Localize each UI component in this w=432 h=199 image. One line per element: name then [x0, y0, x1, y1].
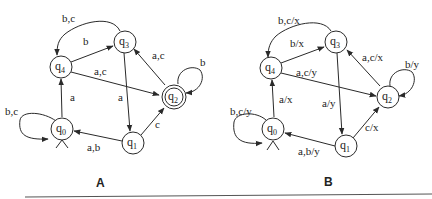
initial-state-marker: [267, 141, 279, 150]
edge-label: c: [155, 118, 160, 130]
state-q4: q4: [50, 56, 72, 78]
edge-q4-q3: b: [71, 35, 113, 62]
edge-q4-q2: a,c: [71, 65, 159, 95]
edge-q3-q4: b,c: [57, 12, 120, 55]
state-q1: q1: [122, 132, 144, 154]
edge-label: a,c: [152, 49, 165, 61]
edge-label: a,b/y: [298, 145, 320, 157]
edge-label: a,c: [94, 65, 107, 77]
figure-caption-a: A: [96, 176, 105, 190]
edge-label: a: [70, 91, 75, 103]
edge-q1-q2: c/x: [353, 107, 379, 138]
edge-label: b,c/y: [230, 105, 252, 117]
edge-q2-q3: a,c/x: [347, 50, 384, 86]
diagram-b: b,c/y a/x b/x b,c/x a,c/y a/y a,c/x b/y: [230, 14, 420, 189]
edge-q0-q4: a/x: [272, 80, 293, 117]
diagram-a: b,c a b b,c a,c a a,c b: [5, 12, 206, 190]
edge-label: b,c/x: [278, 14, 300, 26]
edge-label: a: [118, 91, 123, 103]
state-q2-accepting: q2: [162, 85, 186, 109]
edge-q2-q3: a,c: [134, 49, 165, 85]
edge-q1-q2: c: [141, 108, 164, 135]
state-q4: q4: [260, 57, 282, 79]
state-q0: q0: [262, 118, 284, 140]
edge-label: b: [83, 35, 89, 47]
edge-label: a/y: [322, 97, 336, 109]
edge-q1-q0: a,b: [74, 131, 122, 153]
edge-q0-q0: b,c/y: [230, 105, 266, 143]
edge-label: b,c: [5, 105, 18, 117]
automata-figure: b,c a b b,c a,c a a,c b: [0, 0, 432, 199]
state-q3: q3: [325, 31, 347, 53]
edge-q0-q4: a: [61, 79, 75, 117]
initial-state-marker: [56, 140, 68, 148]
edge-q1-q0: a,b/y: [285, 133, 335, 157]
edge-label: b: [200, 56, 206, 68]
edge-label: b,c: [62, 12, 75, 24]
state-q3: q3: [114, 31, 136, 53]
state-q2: q2: [377, 86, 399, 108]
edge-q3-q1: a: [118, 53, 130, 131]
edge-label: a,b: [87, 141, 101, 153]
bottom-divider: [25, 194, 432, 197]
edge-label: b/x: [290, 37, 305, 49]
edge-label: c/x: [365, 121, 379, 133]
edge-q4-q3: b/x: [281, 37, 324, 63]
edge-label: a/x: [279, 93, 293, 105]
edge-label: a,c/x: [362, 51, 384, 63]
edge-label: b/y: [405, 58, 420, 70]
edge-q0-q0: b,c: [5, 105, 56, 139]
edge-q4-q2: a,c/y: [281, 66, 376, 96]
edge-q3-q1: a/y: [322, 53, 342, 134]
figure-caption-b: B: [324, 175, 333, 189]
state-q1: q1: [335, 135, 357, 157]
state-q0: q0: [51, 118, 73, 140]
edge-q3-q4: b,c/x: [268, 14, 331, 57]
edge-label: a,c/y: [296, 66, 318, 78]
